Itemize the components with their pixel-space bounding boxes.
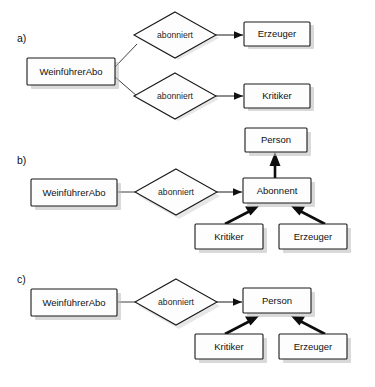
entity-a-weinfuehrerabo-label: WeinführerAbo — [39, 66, 102, 77]
section-c-label: c) — [17, 273, 26, 285]
entity-b-erzeuger-label: Erzeuger — [294, 231, 333, 242]
relationship-a-abonniert-2-label: abonniert — [157, 91, 193, 101]
entity-c-weinfuehrerabo-label: WeinführerAbo — [42, 297, 105, 308]
entity-c-person-label: Person — [262, 295, 292, 306]
relationship-a-abonniert-1-label: abonniert — [157, 30, 193, 40]
section-b-label: b) — [17, 154, 26, 166]
section-a-label: a) — [17, 32, 26, 44]
entity-b-person-label: Person — [261, 134, 291, 145]
relationship-b-abonniert-label: abonniert — [158, 187, 194, 197]
er-diagram-canvas: a) WeinführerAbo abonniert abonniert Erz… — [0, 0, 375, 387]
er-diagram-figure: a) WeinführerAbo abonniert abonniert Erz… — [0, 0, 375, 387]
entity-c-erzeuger-label: Erzeuger — [294, 341, 333, 352]
entity-b-weinfuehrerabo-label: WeinführerAbo — [42, 187, 105, 198]
entity-b-kritiker-label: Kritiker — [214, 231, 244, 242]
relationship-c-abonniert-label: abonniert — [158, 297, 194, 307]
entity-a-kritiker-label: Kritiker — [262, 90, 292, 101]
entity-b-abonnent-label: Abonnent — [257, 185, 298, 196]
entity-c-kritiker-label: Kritiker — [214, 341, 244, 352]
entity-a-erzeuger-label: Erzeuger — [258, 28, 297, 39]
